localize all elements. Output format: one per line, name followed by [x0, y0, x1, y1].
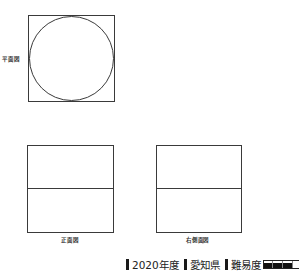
footer-info: 2020年度 愛知県 難易度: [126, 258, 299, 271]
footer-year: 2020年度: [126, 257, 179, 272]
difficulty-label: 難易度: [231, 257, 261, 272]
footer-difficulty: 難易度: [225, 257, 299, 272]
front-view-label: 正面図: [61, 236, 78, 244]
plan-view-circle: [29, 16, 114, 101]
year-marker-icon: [126, 259, 129, 270]
footer-prefecture: 愛知県: [184, 257, 220, 272]
difficulty-cell: [283, 261, 293, 268]
year-text: 2020年度: [132, 257, 179, 272]
front-view: [27, 145, 114, 233]
right-side-view-divider-line: [157, 188, 241, 189]
right-side-view: [156, 145, 242, 233]
prefecture-text: 愛知県: [190, 257, 220, 272]
difficulty-cell: [273, 261, 283, 268]
prefecture-marker-icon: [184, 259, 187, 270]
difficulty-marker-icon: [225, 259, 228, 270]
front-view-divider-line: [28, 188, 113, 189]
plan-view: [28, 15, 115, 102]
right-side-view-label: 右側面図: [186, 236, 209, 244]
difficulty-meter: [263, 260, 299, 269]
plan-view-label: 平面図: [2, 55, 19, 63]
difficulty-cell: [264, 261, 274, 268]
difficulty-cell: [293, 261, 299, 268]
